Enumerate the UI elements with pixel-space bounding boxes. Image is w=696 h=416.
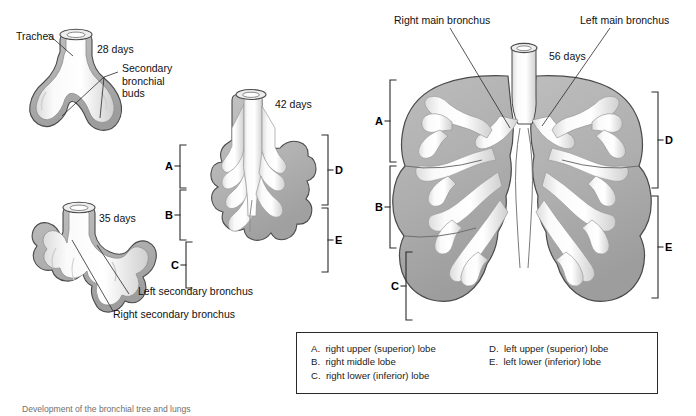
secondary-buds-line-2: bronchial	[122, 75, 202, 88]
bracket-label-e-42: E	[335, 234, 342, 246]
bracket-e-56	[652, 196, 658, 298]
bracket-label-d-56: D	[665, 134, 673, 146]
bracket-label-c-42: C	[171, 259, 179, 271]
label-secondary-bronchial-buds: Secondary bronchial buds	[122, 62, 202, 100]
stage-42-days-illustration	[211, 90, 316, 241]
label-right-main-bronchus: Right main bronchus	[394, 14, 490, 27]
bracket-label-c-56: C	[391, 280, 399, 292]
stage-56-days-illustration	[393, 43, 652, 301]
legend-column-right: D. left upper (superior) lobe E. left lo…	[489, 342, 608, 369]
label-35-days: 35 days	[99, 212, 136, 225]
bracket-label-b-56: B	[375, 201, 383, 213]
figure-lung-development: Trachea 28 days Secondary bronchial buds…	[0, 0, 696, 416]
bracket-label-b-42: B	[165, 209, 173, 221]
bracket-b-42	[180, 190, 186, 240]
label-28-days: 28 days	[97, 43, 134, 56]
bracket-a-42	[180, 145, 186, 188]
legend-column-left: A. right upper (superior) lobe B. right …	[311, 342, 436, 382]
label-right-secondary-bronchus: Right secondary bronchus	[113, 308, 235, 321]
bracket-d-56	[652, 92, 658, 188]
figure-caption: Development of the bronchial tree and lu…	[22, 404, 191, 414]
legend-box: A. right upper (superior) lobe B. right …	[296, 332, 658, 394]
secondary-buds-line-1: Secondary	[122, 62, 202, 75]
label-left-main-bronchus: Left main bronchus	[580, 14, 669, 27]
secondary-buds-line-3: buds	[122, 87, 202, 100]
bracket-d-42	[322, 135, 328, 205]
bracket-label-a-42: A	[165, 160, 173, 172]
bracket-label-e-56: E	[665, 241, 672, 253]
label-trachea: Trachea	[16, 30, 54, 43]
label-left-secondary-bronchus: Left secondary bronchus	[138, 285, 253, 298]
label-42-days: 42 days	[275, 98, 312, 111]
label-56-days: 56 days	[549, 50, 586, 63]
bracket-a-56	[390, 80, 396, 162]
bracket-label-a-56: A	[375, 115, 383, 127]
bracket-label-d-42: D	[335, 164, 343, 176]
bracket-e-42	[322, 208, 328, 272]
bracket-c-42	[186, 242, 192, 288]
